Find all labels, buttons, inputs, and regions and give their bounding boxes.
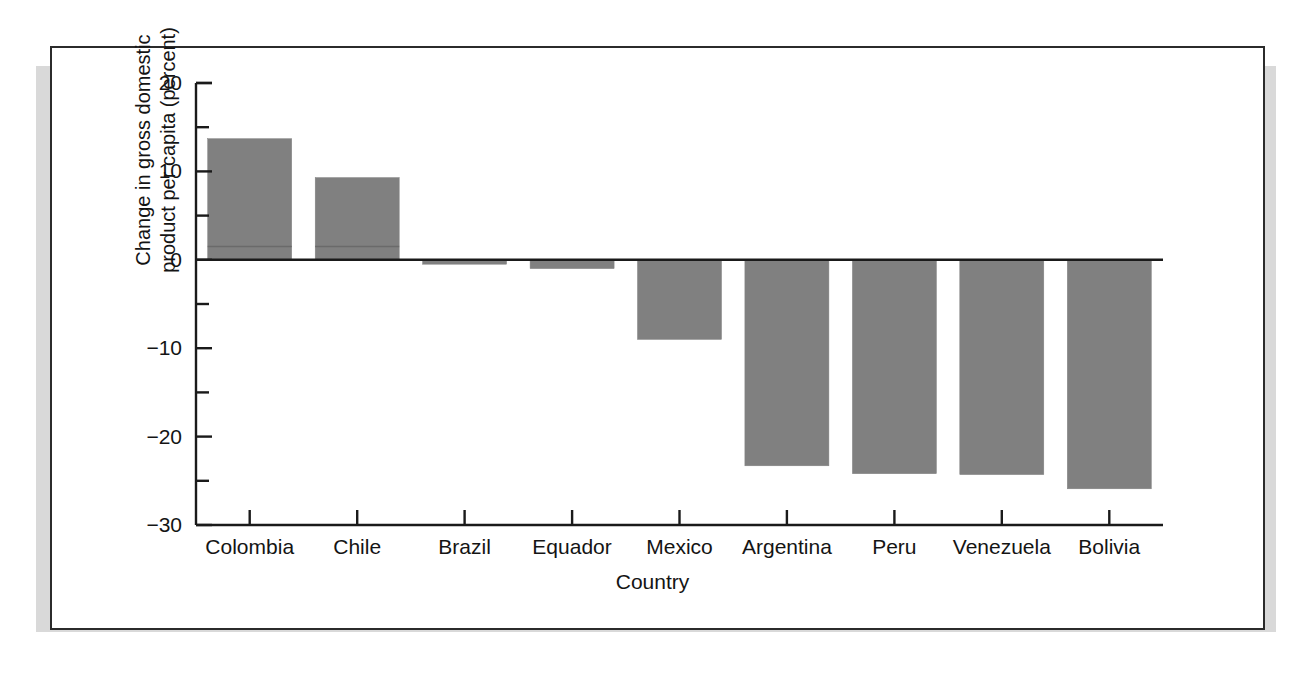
y-tick-label-0: 0 (66, 249, 182, 270)
y-tick-label-10: 10 (66, 160, 182, 181)
x-tick-label-bolivia: Bolivia (1019, 536, 1199, 557)
bar-hit-argentina[interactable] (745, 260, 829, 466)
y-axis-title-line2: product per capita (percent) (157, 27, 179, 273)
bar-hit-peru[interactable] (852, 260, 936, 474)
y-tick-label--10: −10 (66, 337, 182, 358)
bar-hit-colombia[interactable] (208, 139, 292, 260)
y-tick-label--30: −30 (66, 514, 182, 535)
y-tick-label-20: 20 (66, 72, 182, 93)
bar-hit-bolivia[interactable] (1067, 260, 1151, 489)
bar-hit-equador[interactable] (530, 260, 614, 269)
x-axis-title: Country (0, 570, 1305, 594)
bar-hit-venezuela[interactable] (960, 260, 1044, 475)
y-tick-label--20: −20 (66, 426, 182, 447)
bar-hit-brazil[interactable] (423, 260, 507, 264)
y-axis-title-line1: Change in gross domestic (132, 34, 154, 265)
bar-hit-chile[interactable] (315, 178, 399, 260)
bar-hit-mexico[interactable] (638, 260, 722, 340)
